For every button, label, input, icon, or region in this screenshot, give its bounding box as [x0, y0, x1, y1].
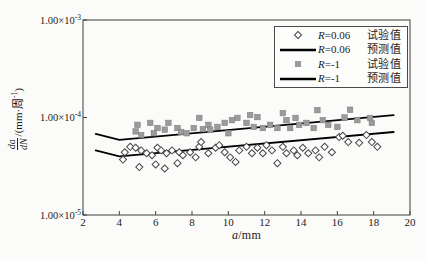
- x-axis-label: a/mm: [83, 228, 410, 243]
- legend: R=0.06试验值R=0.06预测值R=-1试验值R=-1预测值: [274, 26, 408, 88]
- x-tick-label: 18: [368, 216, 380, 228]
- data-point-square: [133, 129, 139, 135]
- data-point-diamond: [161, 165, 168, 172]
- data-point-diamond: [136, 164, 143, 171]
- legend-row: R=-1预测值: [278, 72, 401, 86]
- data-point-square: [207, 127, 213, 133]
- data-point-diamond: [368, 139, 375, 146]
- data-point-diamond: [356, 139, 363, 146]
- data-point-square: [196, 115, 202, 121]
- data-point-square: [222, 120, 228, 126]
- data-point-diamond: [268, 147, 275, 154]
- data-point-square: [287, 125, 293, 131]
- data-point-square: [247, 112, 253, 118]
- data-point-square: [342, 115, 348, 121]
- data-point-diamond: [192, 154, 199, 161]
- data-point-diamond: [283, 150, 290, 157]
- data-point-diamond: [236, 147, 243, 154]
- x-tick-label: 2: [80, 216, 86, 228]
- legend-ratio-label: R=0.06: [318, 44, 364, 55]
- legend-ratio-label: R=-1: [318, 73, 364, 84]
- data-point-diamond: [312, 147, 319, 154]
- data-point-square: [215, 124, 221, 130]
- y-tick-label: 1.00×10-5: [40, 208, 81, 221]
- x-tick-label: 20: [405, 216, 417, 228]
- data-point-diamond: [152, 161, 159, 168]
- data-point-square: [147, 120, 153, 126]
- legend-filled-square-icon: [278, 58, 318, 70]
- data-point-square: [184, 130, 190, 136]
- data-point-square: [260, 125, 266, 131]
- x-axis-unit: /mm: [238, 228, 261, 242]
- data-point-square: [166, 120, 172, 126]
- data-point-square: [244, 120, 250, 126]
- legend-open-diamond-icon: [278, 29, 318, 41]
- data-point-square: [178, 129, 184, 135]
- data-point-square: [191, 125, 197, 131]
- legend-row: R=-1试验值: [278, 57, 401, 71]
- data-point-square: [162, 127, 168, 133]
- data-point-square: [320, 117, 326, 123]
- data-point-square: [235, 115, 241, 121]
- data-point-diamond: [232, 158, 239, 165]
- data-point-square: [369, 120, 375, 126]
- data-point-diamond: [374, 143, 381, 150]
- data-point-square: [151, 130, 157, 136]
- data-point-diamond: [254, 144, 261, 151]
- data-point-diamond: [205, 150, 212, 157]
- data-point-diamond: [345, 139, 352, 146]
- legend-row: R=0.06预测值: [278, 43, 401, 57]
- legend-row: R=0.06试验值: [278, 28, 401, 42]
- data-point-square: [200, 126, 206, 132]
- data-point-diamond: [119, 156, 126, 163]
- legend-line-icon: [278, 73, 318, 85]
- data-point-diamond: [316, 154, 323, 161]
- data-point-diamond: [305, 150, 312, 157]
- data-point-diamond: [221, 149, 228, 156]
- data-point-diamond: [321, 143, 328, 150]
- data-point-diamond: [274, 160, 281, 167]
- data-point-square: [135, 122, 141, 128]
- data-point-diamond: [174, 160, 181, 167]
- data-point-diamond: [248, 150, 255, 157]
- data-point-square: [335, 124, 341, 130]
- legend-value-label: 预测值: [364, 73, 401, 84]
- x-tick-label: 12: [259, 216, 270, 228]
- data-point-diamond: [259, 150, 266, 157]
- data-point-square: [347, 107, 353, 113]
- data-point-square: [267, 122, 273, 128]
- data-point-square: [293, 115, 299, 121]
- data-point-square: [229, 117, 235, 123]
- data-point-square: [255, 114, 261, 120]
- crack-growth-rate-chart: 24681012141618201.00×10-31.00×10-41.00×1…: [0, 0, 426, 260]
- legend-ratio-label: R=0.06: [318, 30, 364, 41]
- data-point-square: [138, 132, 144, 138]
- data-point-square: [155, 125, 161, 131]
- data-point-square: [355, 117, 361, 123]
- data-point-diamond: [328, 149, 335, 156]
- data-point-square: [226, 130, 232, 136]
- data-point-square: [275, 125, 281, 131]
- y-tick-label: 1.00×10-4: [40, 110, 81, 123]
- legend-value-label: 试验值: [364, 59, 401, 70]
- data-point-square: [251, 124, 257, 130]
- data-point-diamond: [279, 143, 286, 150]
- data-point-square: [311, 125, 317, 131]
- legend-value-label: 预测值: [364, 44, 401, 55]
- data-point-diamond: [227, 154, 234, 161]
- x-tick-label: 6: [153, 216, 159, 228]
- x-tick-label: 8: [189, 216, 195, 228]
- x-tick-label: 16: [332, 216, 344, 228]
- legend-line-icon: [278, 44, 318, 56]
- data-point-diamond: [299, 144, 306, 151]
- x-tick-label: 10: [223, 216, 235, 228]
- data-point-diamond: [363, 132, 370, 139]
- legend-value-label: 试验值: [364, 30, 401, 41]
- data-point-square: [284, 117, 290, 123]
- x-tick-label: 4: [117, 216, 123, 228]
- data-point-square: [315, 107, 321, 113]
- data-point-square: [280, 110, 286, 116]
- data-point-square: [304, 120, 310, 126]
- legend-ratio-label: R=-1: [318, 59, 364, 70]
- x-tick-label: 14: [296, 216, 308, 228]
